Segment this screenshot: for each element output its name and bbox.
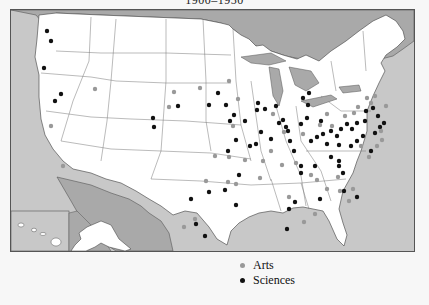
sciences-point [285, 227, 289, 231]
sciences-point [286, 129, 290, 133]
arts-point [287, 195, 291, 199]
sciences-point [299, 164, 303, 168]
sciences-point [319, 119, 323, 123]
sciences-point [301, 96, 305, 100]
arts-point [384, 104, 388, 108]
arts-point [302, 220, 306, 224]
sciences-point [315, 135, 319, 139]
sciences-point [207, 103, 211, 107]
sciences-point [234, 138, 238, 142]
arts-point [352, 111, 356, 115]
legend: Arts Sciences [240, 258, 295, 288]
sciences-point [325, 142, 329, 146]
legend-item-arts: Arts [240, 258, 295, 273]
sciences-point [152, 125, 156, 129]
arts-point [271, 112, 275, 116]
sciences-point [256, 101, 260, 105]
sciences-point [361, 134, 365, 138]
arts-point [336, 175, 340, 179]
sciences-point [207, 190, 211, 194]
sciences-point [306, 103, 310, 107]
arts-point [318, 123, 322, 127]
sciences-point [151, 116, 155, 120]
arts-point [49, 124, 53, 128]
arts-point [359, 144, 363, 148]
sciences-point [349, 144, 353, 148]
map-title: 1900–1950 [0, 0, 429, 8]
sciences-point [313, 164, 317, 168]
arts-point [379, 129, 383, 133]
arts-point [204, 179, 208, 183]
sciences-point [335, 134, 339, 138]
arts-point [261, 159, 265, 163]
sciences-point [176, 104, 180, 108]
arts-point [373, 94, 377, 98]
sciences-point [378, 125, 382, 129]
arts-point [61, 164, 65, 168]
sciences-point [337, 159, 341, 163]
sciences-point [254, 142, 258, 146]
us-map [11, 10, 414, 251]
arts-point [231, 124, 235, 128]
legend-item-sciences: Sciences [240, 273, 295, 288]
arts-point [227, 155, 231, 159]
sciences-point [376, 114, 380, 118]
sciences-point [284, 125, 288, 129]
sciences-point [274, 104, 278, 108]
sciences-point [237, 173, 241, 177]
legend-label-sciences: Sciences [253, 273, 295, 288]
sciences-point [45, 29, 49, 33]
arts-point [343, 114, 347, 118]
sciences-point [216, 91, 220, 95]
arts-point [234, 182, 238, 186]
sciences-point [337, 143, 341, 147]
arts-point [226, 180, 230, 184]
sciences-point [248, 144, 252, 148]
sciences-point [194, 222, 198, 226]
sciences-point [329, 155, 333, 159]
sciences-point [329, 129, 333, 133]
sciences-point [307, 91, 311, 95]
arts-point [365, 96, 369, 100]
sciences-point [293, 200, 297, 204]
arts-point [330, 124, 334, 128]
sciences-point [373, 131, 377, 135]
sciences-point [255, 108, 259, 112]
arts-point [313, 212, 317, 216]
arts-point [243, 158, 247, 162]
arts-point [351, 187, 355, 191]
sciences-point [371, 106, 375, 110]
hawaii-inset [11, 211, 69, 251]
sciences-point [259, 130, 263, 134]
arts-point [198, 86, 202, 90]
sciences-point [281, 118, 285, 122]
arts-point [213, 154, 217, 158]
sciences-point [42, 66, 46, 70]
legend-label-arts: Arts [253, 258, 274, 273]
sciences-point [224, 103, 228, 107]
arts-point [315, 178, 319, 182]
sciences-point [232, 113, 236, 117]
arts-point [338, 189, 342, 193]
arts-point [294, 161, 298, 165]
sciences-point [292, 149, 296, 153]
arts-point [369, 101, 373, 105]
arts-point [380, 138, 384, 142]
arts-dot-icon [240, 263, 245, 268]
sciences-point [234, 203, 238, 207]
sciences-point [369, 149, 373, 153]
sciences-point [382, 121, 386, 125]
arts-point [309, 173, 313, 177]
sciences-point [228, 119, 232, 123]
sciences-point [189, 197, 193, 201]
sciences-point [355, 139, 359, 143]
arts-point [227, 79, 231, 83]
sciences-point [364, 109, 368, 113]
sciences-point [287, 207, 291, 211]
sciences-point [269, 137, 273, 141]
sciences-point [345, 122, 349, 126]
arts-point [325, 187, 329, 191]
arts-point [172, 90, 176, 94]
sciences-point [263, 107, 267, 111]
sciences-point [243, 119, 247, 123]
